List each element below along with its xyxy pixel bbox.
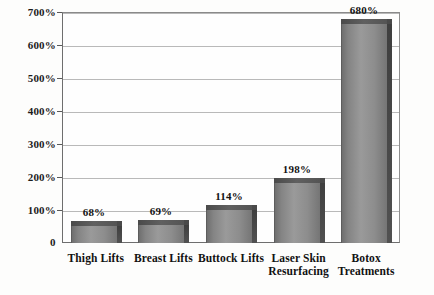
y-tick-label-100: 100% — [0, 204, 56, 216]
bar-side-face — [387, 24, 392, 243]
y-tick-label-0: 0 — [50, 236, 56, 248]
bar-side-face — [117, 226, 122, 243]
y-tick-label-400: 400% — [0, 105, 56, 117]
y-tick-mark-400 — [57, 111, 62, 112]
y-tick-mark-700 — [57, 12, 62, 13]
bar-top-corner — [320, 178, 325, 183]
bar-top-face — [206, 205, 252, 210]
bar-front-face — [71, 226, 117, 243]
bar-top-face — [71, 221, 117, 226]
bar — [138, 220, 184, 243]
y-tick-label-300: 300% — [0, 138, 56, 150]
bar-top-face — [341, 19, 387, 24]
bar-top-face — [138, 220, 184, 225]
bar-top-corner — [252, 205, 257, 210]
bar-top-corner — [387, 19, 392, 24]
bar-top-corner — [184, 220, 189, 225]
y-tick-label-200: 200% — [0, 171, 56, 183]
bar-side-face — [184, 225, 189, 243]
bar-top-face — [274, 178, 320, 183]
y-tick-mark-600 — [57, 45, 62, 46]
bar — [341, 19, 387, 243]
bar-value-label: 198% — [260, 163, 334, 175]
bar — [274, 178, 320, 243]
bar-value-label: 114% — [192, 190, 266, 202]
y-tick-label-700: 700% — [0, 6, 56, 18]
bar-front-face — [206, 210, 252, 243]
bar — [206, 205, 252, 243]
bar-top-corner — [117, 221, 122, 226]
bar — [71, 221, 117, 243]
chart-screenshot: 100%200%300%400%500%600%700% 68%69%114%1… — [0, 0, 434, 295]
bar-value-label: 69% — [124, 205, 198, 217]
bar-side-face — [320, 183, 325, 243]
y-tick-mark-300 — [57, 144, 62, 145]
y-tick-label-600: 600% — [0, 39, 56, 51]
bar-front-face — [138, 225, 184, 243]
bar-value-label: 68% — [57, 206, 131, 218]
bar-front-face — [274, 183, 320, 243]
bar-side-face — [252, 210, 257, 243]
y-tick-mark-200 — [57, 177, 62, 178]
bar-front-face — [341, 24, 387, 243]
bar-value-label: 680% — [327, 4, 401, 16]
y-tick-label-500: 500% — [0, 72, 56, 84]
category-label: Botox Treatments — [320, 252, 412, 278]
y-tick-mark-500 — [57, 78, 62, 79]
